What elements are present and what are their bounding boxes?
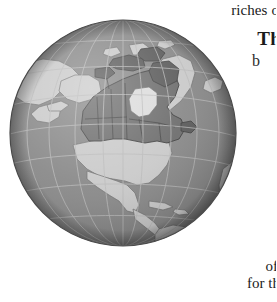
globe-illustration <box>9 19 237 247</box>
section-subheading: b <box>252 52 260 70</box>
document-page: riches o Th b of for th <box>0 0 276 302</box>
globe-svg <box>9 19 237 247</box>
body-text-line-bottom-2: for th <box>247 275 276 292</box>
section-heading: Th <box>257 28 276 50</box>
body-text-line-top: riches o <box>231 2 276 19</box>
body-text-line-bottom-1: of <box>266 258 277 275</box>
globe-limb-shadow <box>10 20 236 246</box>
